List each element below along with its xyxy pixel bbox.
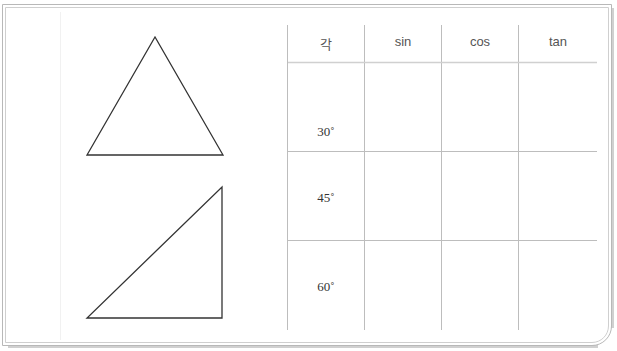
cell-sin-30[interactable] [365,63,441,151]
cell-cos-45[interactable] [442,152,518,240]
cell-tan-60[interactable] [519,241,597,330]
table-header-cos: cos [442,34,518,49]
right-triangle [87,187,222,318]
cell-sin-45[interactable] [365,152,441,240]
table-header-angle: 각 [288,34,364,53]
cell-tan-30[interactable] [519,63,597,151]
table-header-sin: sin [365,34,441,49]
table-row-angle-45: 45˚ [288,190,364,206]
equilateral-triangle [87,37,223,155]
table-row-angle-60: 60˚ [288,279,364,295]
cell-cos-60[interactable] [442,241,518,330]
table-row-angle-30: 30˚ [288,124,364,140]
cell-cos-30[interactable] [442,63,518,151]
cell-sin-60[interactable] [365,241,441,330]
table-header-tan: tan [519,34,597,49]
cell-tan-45[interactable] [519,152,597,240]
